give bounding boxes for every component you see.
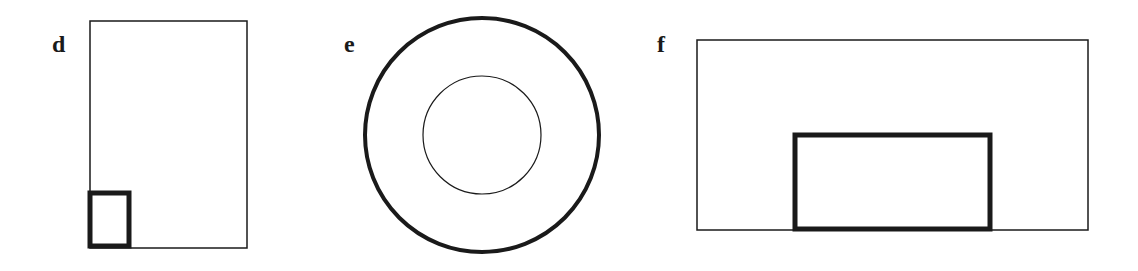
outer-circle-e: [365, 18, 599, 252]
panel-label-d: d: [52, 31, 66, 57]
panel-label-e: e: [344, 31, 355, 57]
inner-circle-e: [423, 76, 541, 194]
figure-canvas: d e f: [0, 0, 1138, 271]
panel-e: e: [344, 18, 599, 252]
outer-rectangle-d: [90, 21, 247, 248]
panel-f: f: [657, 31, 1088, 230]
inner-rectangle-d: [90, 193, 129, 246]
panel-label-f: f: [657, 31, 666, 57]
inner-rectangle-f: [795, 135, 990, 229]
panel-d: d: [52, 21, 247, 248]
